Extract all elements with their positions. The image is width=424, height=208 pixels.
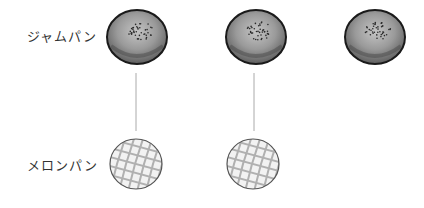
jam-bun-2	[226, 10, 286, 64]
matching-diagram	[0, 0, 424, 208]
melon-bun-2	[218, 129, 288, 199]
melon-bun-1	[101, 129, 171, 199]
jam-bun-3	[345, 10, 405, 64]
jam-bun-1	[107, 10, 167, 64]
